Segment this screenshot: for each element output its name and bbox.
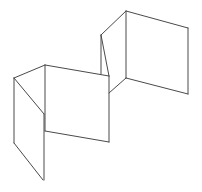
middle-panel <box>45 65 109 142</box>
upper-fold-panel <box>101 11 126 93</box>
edge-line <box>126 11 188 28</box>
edge-line <box>14 78 44 114</box>
edge-line <box>14 143 43 180</box>
cropped-caption <box>0 185 202 192</box>
folding-screen-figure <box>0 0 202 192</box>
edge-line <box>126 78 188 94</box>
edge-line <box>45 131 109 142</box>
edge-line <box>101 11 126 35</box>
edge-line <box>45 65 109 76</box>
left-panel <box>14 65 45 180</box>
edge-line <box>14 65 45 78</box>
edge-line <box>101 35 109 76</box>
edge-line <box>109 78 126 93</box>
right-panel <box>126 11 188 94</box>
